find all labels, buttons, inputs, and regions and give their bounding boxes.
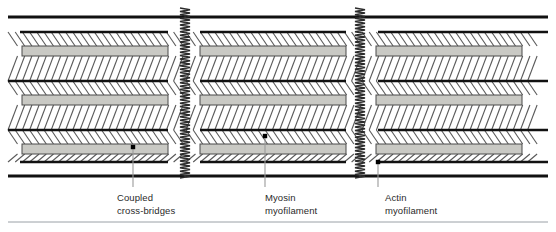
callout-anchor-dot	[263, 134, 267, 138]
myosin-myofilament	[200, 95, 346, 105]
myosin-myofilament	[22, 144, 168, 154]
callout-label-coupled-cross-bridges: Coupled cross-bridges	[117, 192, 175, 217]
myosin-myofilament	[376, 95, 522, 105]
callout-anchor-dot	[376, 160, 380, 164]
myosin-myofilament	[200, 144, 346, 154]
callout-label-actin-myofilament: Actin myofilament	[385, 192, 437, 217]
myosin-myofilament	[22, 46, 168, 56]
myosin-myofilament	[200, 46, 346, 56]
myosin-myofilament	[22, 95, 168, 105]
myosin-myofilament	[376, 144, 522, 154]
callout-label-myosin-myofilament: Myosin myofilament	[265, 192, 317, 217]
diagram-canvas: Coupled cross-bridges Myosin myofilament…	[0, 0, 556, 232]
myosin-myofilament	[376, 46, 522, 56]
callout-anchor-dot	[131, 145, 135, 149]
